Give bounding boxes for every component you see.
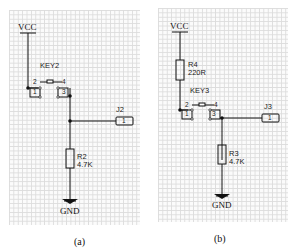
switch-pin-2: 2 <box>185 102 189 109</box>
resistor-value-label: 4.7K <box>229 158 244 166</box>
switch-pin-3: 3 <box>62 89 66 96</box>
gnd-label: GND <box>60 207 80 216</box>
vcc-label: VCC <box>18 23 37 32</box>
gnd-label: GND <box>212 201 232 210</box>
switch-pin-1: 1 <box>185 111 189 118</box>
series-resistor-value-label: 220R <box>188 69 206 77</box>
connector-pin-label: 1 <box>122 118 126 125</box>
resistor-value-label: 4.7K <box>77 161 92 169</box>
switch-pin-3: 3 <box>212 111 216 118</box>
switch-ref-label: KEY3 <box>190 87 209 95</box>
panel-caption-b: (b) <box>214 233 226 244</box>
switch-pin-4: 4 <box>214 102 218 109</box>
switch-pin-4: 4 <box>62 79 66 86</box>
vcc-label: VCC <box>170 22 189 31</box>
schematic-wires-b <box>150 0 298 252</box>
connector-ref-label: J3 <box>264 103 272 111</box>
switch-pin-1: 1 <box>33 89 37 96</box>
schematic-panel-a: VCC KEY2 2 4 1 3 J2 1 R2 4.7K GND (a) <box>0 0 150 252</box>
switch-ref-label: KEY2 <box>40 62 59 70</box>
panel-caption-a: (a) <box>74 236 85 247</box>
switch-pin-2: 2 <box>33 79 37 86</box>
connector-ref-label: J2 <box>116 106 124 114</box>
connector-pin-label: 1 <box>268 115 272 122</box>
schematic-panel-b: VCC R4 220R KEY3 2 4 1 3 J3 1 R3 4.7K GN… <box>150 0 298 252</box>
